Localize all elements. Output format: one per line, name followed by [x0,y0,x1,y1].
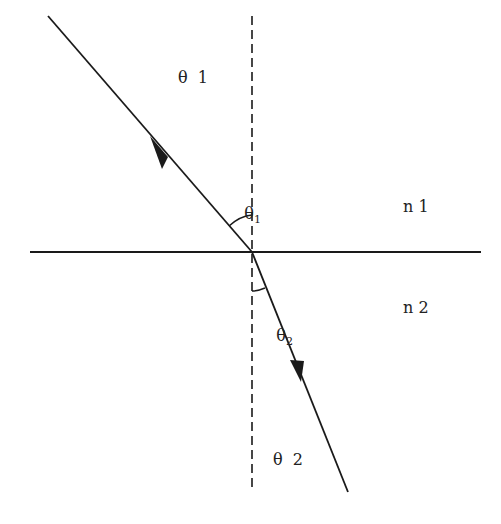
angle-1-label: θ1 [224,185,261,242]
incident-ray [48,16,252,252]
angle-2-subscript: 2 [286,335,293,348]
medium-2-label: n 2 [403,298,429,317]
angle-2-symbol: θ [276,326,286,345]
angle-1-symbol: θ [244,204,254,223]
theta-2-region-label: θ 2 [273,450,303,469]
refraction-diagram: θ 1 θ 2 n 1 n 2 θ1 θ2 [0,0,501,524]
angle-2-label: θ2 [256,307,293,364]
angle-1-subscript: 1 [254,213,261,226]
medium-1-label: n 1 [403,197,429,216]
theta-1-region-label: θ 1 [178,68,208,87]
diagram-lines [0,0,501,524]
angle-2-arc [252,288,265,291]
